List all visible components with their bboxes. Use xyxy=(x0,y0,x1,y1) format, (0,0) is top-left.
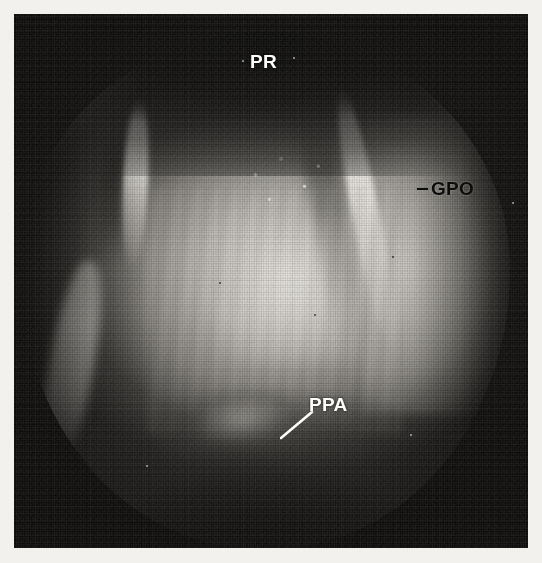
photograph-frame: PR GPO PPA xyxy=(14,14,528,548)
dust-speck xyxy=(242,60,244,62)
dust-speck xyxy=(410,434,412,436)
figure-page: PR GPO PPA xyxy=(0,0,542,563)
dark-speck xyxy=(219,282,221,284)
annotation-label-gpo-text: GPO xyxy=(431,179,474,198)
right-vignette xyxy=(412,32,510,548)
dust-speck xyxy=(512,202,514,204)
endoscope-field-of-view xyxy=(20,32,510,548)
dust-speck xyxy=(146,465,148,467)
dark-speck xyxy=(314,314,316,316)
dust-speck xyxy=(293,57,295,59)
gpo-leader-dash xyxy=(417,188,428,190)
annotation-label-gpo: GPO xyxy=(417,179,474,198)
annotation-label-ppa: PPA xyxy=(309,395,348,414)
dark-speck xyxy=(392,256,394,258)
annotation-label-pr: PR xyxy=(250,52,277,71)
central-highlight xyxy=(216,218,363,362)
left-vignette xyxy=(20,32,147,548)
